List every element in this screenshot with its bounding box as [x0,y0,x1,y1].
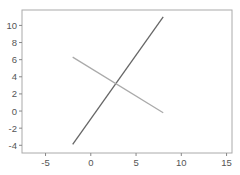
x-axis: -5051015 [41,153,232,168]
x-tick-label: 0 [88,157,93,168]
y-tick-label: 6 [12,54,17,65]
x-tick-label: 5 [133,157,138,168]
x-tick-label: -5 [41,157,49,168]
x-tick-label: 15 [221,157,232,168]
plot-frame [22,10,232,153]
y-tick-label: 2 [12,88,17,99]
y-tick-label: 0 [12,106,17,117]
x-tick-label: 10 [176,157,187,168]
y-tick-label: -2 [9,123,17,134]
y-tick-label: -4 [9,140,17,151]
line-chart: -5051015 -4-20246810 [0,0,240,175]
y-tick-label: 4 [12,71,17,82]
y-tick-label: 10 [6,20,17,31]
y-tick-label: 8 [12,37,17,48]
y-axis: -4-20246810 [6,20,22,151]
